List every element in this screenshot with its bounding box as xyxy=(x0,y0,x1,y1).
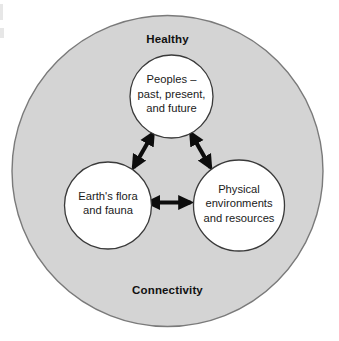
node-label-peoples-line-3: and future xyxy=(146,102,196,114)
node-label-physical-line-2: environments xyxy=(205,197,273,209)
outer-label-healthy: Healthy xyxy=(146,33,189,45)
node-label-flora-fauna-line-2: and fauna xyxy=(83,204,134,216)
node-label-physical-line-3: and resources xyxy=(204,212,275,224)
diagram-canvas: Healthy Connectivity Peoples – past, pre… xyxy=(0,0,339,341)
node-label-physical-line-1: Physical xyxy=(218,183,260,195)
node-label-peoples-line-2: past, present, xyxy=(138,88,206,100)
diagram-root: Healthy Connectivity Peoples – past, pre… xyxy=(0,0,339,341)
node-label-flora-fauna-line-1: Earth's flora xyxy=(78,190,138,202)
scan-artifact xyxy=(0,4,3,20)
scan-artifact xyxy=(0,28,4,38)
node-label-peoples: Peoples – past, present, and future xyxy=(138,73,206,114)
outer-label-connectivity: Connectivity xyxy=(132,284,203,296)
node-label-peoples-line-1: Peoples – xyxy=(147,73,198,85)
